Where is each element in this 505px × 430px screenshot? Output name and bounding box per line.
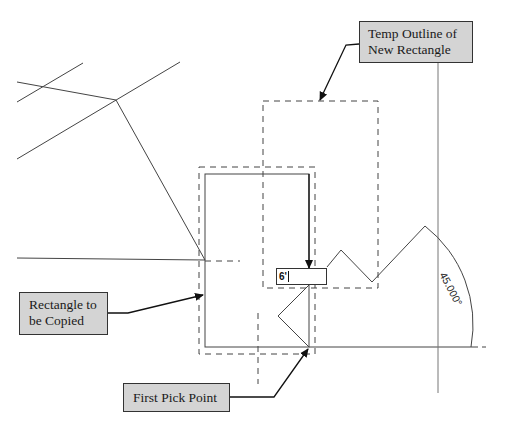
dimension-input[interactable]: 6' [276, 268, 327, 285]
text-cursor [288, 271, 289, 282]
callout-temp-line1: Temp Outline of [368, 26, 464, 42]
construction-line [17, 82, 116, 100]
rubber-band-line [278, 284, 310, 316]
dimension-value: 6' [279, 271, 287, 282]
callout-temp-outline: Temp Outline of New Rectangle [359, 21, 473, 63]
construction-line [17, 63, 83, 102]
leader-temp-outline [320, 44, 359, 100]
zigzag-line [327, 226, 425, 282]
callout-pick-label: First Pick Point [133, 390, 217, 405]
temp-outline-rectangle [263, 101, 378, 288]
callout-rect-line2: be Copied [29, 313, 98, 329]
drawing-canvas [0, 0, 505, 430]
callout-first-pick-point: First Pick Point [123, 383, 230, 412]
construction-line [116, 100, 205, 260]
construction-line [17, 258, 205, 260]
callout-temp-line2: New Rectangle [368, 42, 464, 58]
cad-diagram: Temp Outline of New Rectangle Rectangle … [0, 0, 505, 430]
rubber-band-line [278, 316, 309, 347]
leader-pick-point [230, 349, 308, 397]
leader-rectangle [108, 295, 203, 313]
construction-line [17, 62, 180, 159]
callout-rect-line1: Rectangle to [29, 297, 98, 313]
callout-rectangle-to-be-copied: Rectangle to be Copied [19, 292, 108, 335]
